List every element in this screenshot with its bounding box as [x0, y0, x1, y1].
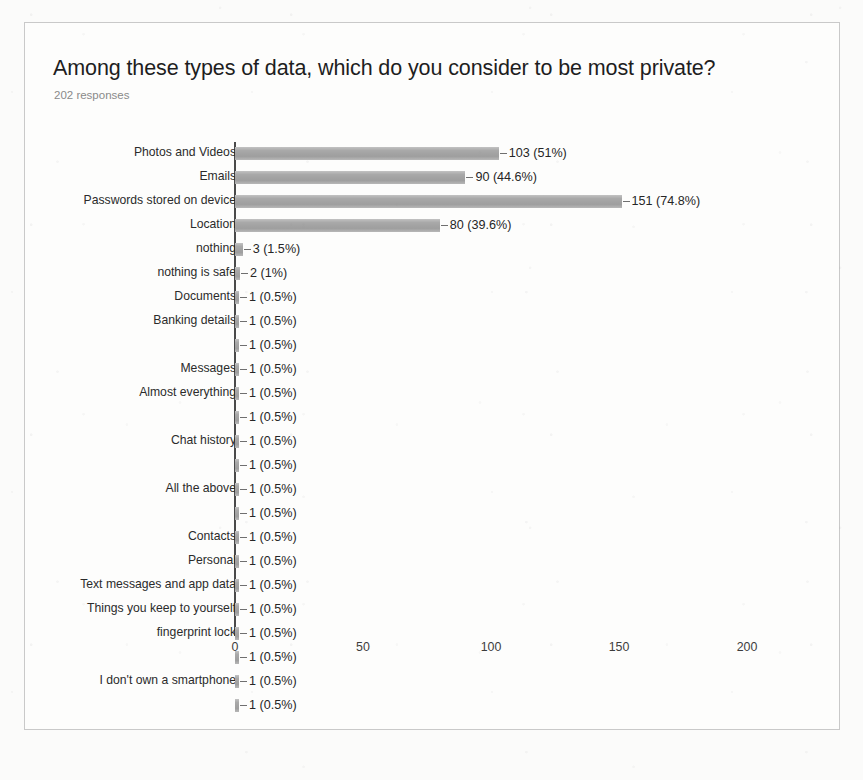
chart-card: Among these types of data, which do you …: [24, 22, 840, 730]
category-label: Messages: [180, 361, 236, 376]
leader-line: [240, 561, 247, 562]
category-label: nothing is safe: [157, 265, 236, 280]
bar[interactable]: [235, 459, 239, 472]
category-label: fingerprint lock: [157, 625, 236, 640]
bar-row: Chat history1 (0.5%): [25, 430, 841, 454]
category-label: Things you keep to yourself: [87, 601, 236, 616]
x-tick-label: 200: [737, 640, 758, 654]
leader-line: [240, 369, 247, 370]
leader-line: [240, 537, 247, 538]
category-label: All the above: [166, 481, 236, 496]
bar[interactable]: [235, 531, 239, 544]
bar-value-label: 1 (0.5%): [249, 457, 297, 473]
bar[interactable]: [235, 171, 465, 184]
bar-row: I don't own a smartphone1 (0.5%): [25, 670, 841, 694]
leader-line: [240, 657, 247, 658]
bar-row: 1 (0.5%): [25, 694, 841, 718]
x-tick-label: 0: [232, 640, 239, 654]
bar-value-label: 1 (0.5%): [249, 577, 297, 593]
leader-line: [240, 321, 247, 322]
leader-line: [241, 273, 248, 274]
leader-line: [240, 441, 247, 442]
bar-value-label: 2 (1%): [250, 265, 287, 281]
leader-line: [240, 585, 247, 586]
leader-line: [240, 345, 247, 346]
category-label: Passwords stored on device: [84, 193, 236, 208]
bar[interactable]: [235, 267, 240, 280]
category-label: Almost everything: [139, 385, 236, 400]
x-tick-label: 50: [356, 640, 370, 654]
bar[interactable]: [235, 243, 243, 256]
leader-line: [240, 465, 247, 466]
category-label: Contacts: [188, 529, 236, 544]
bar-value-label: 1 (0.5%): [249, 361, 297, 377]
bar[interactable]: [235, 507, 239, 520]
category-label: I don't own a smartphone: [100, 673, 236, 688]
bar-value-label: 1 (0.5%): [249, 673, 297, 689]
bar-row: All the above1 (0.5%): [25, 478, 841, 502]
category-label: Banking details: [153, 313, 236, 328]
bar-row: 1 (0.5%): [25, 334, 841, 358]
bar-value-label: 1 (0.5%): [249, 649, 297, 665]
bar-row: fingerprint lock1 (0.5%): [25, 622, 841, 646]
bar-value-label: 80 (39.6%): [450, 217, 512, 233]
leader-line: [441, 225, 448, 226]
bar[interactable]: [235, 339, 239, 352]
bar[interactable]: [235, 555, 239, 568]
bar[interactable]: [235, 627, 239, 640]
bar[interactable]: [235, 291, 239, 304]
bar-value-label: 1 (0.5%): [249, 625, 297, 641]
bar-chart-plot: Photos and Videos103 (51%)Emails90 (44.6…: [25, 23, 841, 731]
category-label: Emails: [199, 169, 236, 184]
bar-value-label: 1 (0.5%): [249, 505, 297, 521]
bar-row: Emails90 (44.6%): [25, 166, 841, 190]
bar-value-label: 1 (0.5%): [249, 529, 297, 545]
leader-line: [240, 681, 247, 682]
bar-value-label: 1 (0.5%): [249, 313, 297, 329]
leader-line: [240, 417, 247, 418]
bar[interactable]: [235, 675, 239, 688]
bar-value-label: 1 (0.5%): [249, 337, 297, 353]
bar-row: 1 (0.5%): [25, 502, 841, 526]
bar-value-label: 1 (0.5%): [249, 601, 297, 617]
bar[interactable]: [235, 603, 239, 616]
leader-line: [240, 393, 247, 394]
bar-row: 1 (0.5%): [25, 646, 841, 670]
bar-row: Documents1 (0.5%): [25, 286, 841, 310]
bar[interactable]: [235, 195, 622, 208]
category-label: Location: [190, 217, 236, 232]
x-tick-label: 150: [609, 640, 630, 654]
bar-value-label: 3 (1.5%): [253, 241, 301, 257]
bar[interactable]: [235, 699, 239, 712]
bar-value-label: 1 (0.5%): [249, 385, 297, 401]
leader-line: [244, 249, 251, 250]
bar[interactable]: [235, 315, 239, 328]
bar-value-label: 1 (0.5%): [249, 481, 297, 497]
category-label: Text messages and app data: [80, 577, 236, 592]
category-label: Documents: [174, 289, 236, 304]
bar[interactable]: [235, 411, 239, 424]
leader-line: [623, 201, 630, 202]
bar[interactable]: [235, 363, 239, 376]
leader-line: [240, 609, 247, 610]
category-label: Chat history: [171, 433, 236, 448]
leader-line: [240, 297, 247, 298]
bar[interactable]: [235, 483, 239, 496]
bar[interactable]: [235, 147, 499, 160]
leader-line: [500, 153, 507, 154]
bar[interactable]: [235, 579, 239, 592]
leader-line: [240, 513, 247, 514]
bar[interactable]: [235, 435, 239, 448]
bar-row: 1 (0.5%): [25, 454, 841, 478]
bar-row: Photos and Videos103 (51%): [25, 142, 841, 166]
category-label: Personal: [188, 553, 236, 568]
bar-row: Text messages and app data1 (0.5%): [25, 574, 841, 598]
leader-line: [240, 489, 247, 490]
bar[interactable]: [235, 219, 440, 232]
bar-row: Passwords stored on device151 (74.8%): [25, 190, 841, 214]
bar[interactable]: [235, 387, 239, 400]
bar-row: 1 (0.5%): [25, 406, 841, 430]
bar-row: Almost everything1 (0.5%): [25, 382, 841, 406]
bar-row: Banking details1 (0.5%): [25, 310, 841, 334]
bar-value-label: 103 (51%): [509, 145, 567, 161]
